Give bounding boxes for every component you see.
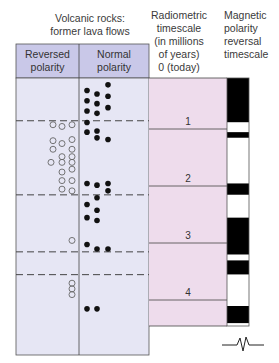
axis-break-icon [222,337,264,351]
normal-lava-flow-dot [94,101,100,107]
normal-lava-flow-dot [84,181,90,187]
timescale-tick-label: 4 [185,287,191,298]
normal-polarity-band [227,306,249,323]
timescale-tick-label: 3 [185,230,191,241]
normal-lava-flow-dot [94,218,100,224]
normal-lava-flow-dot [105,105,111,111]
normal-lava-flow-dot [94,111,100,117]
normal-lava-flow-dot [105,181,111,187]
normal-polarity-band [227,260,249,274]
normal-lava-flow-dot [84,215,90,221]
normal-header-line-1: Normal [97,48,131,60]
reversed-polarity-band [227,275,249,306]
normal-lava-flow-dot [94,195,100,201]
normal-lava-flow-dot [84,88,90,94]
normal-polarity-band [227,78,249,122]
normal-lava-flow-dot [84,108,90,114]
reversed-header-line-1: Reversed [25,48,70,60]
normal-lava-flow-dot [94,128,100,134]
reversed-polarity-band [227,195,249,218]
normal-lava-flow-dot [84,306,90,312]
normal-lava-flow-dot [94,91,100,97]
volcanic-table-body [16,78,149,355]
normal-lava-flow-dot [84,120,90,126]
timescale-tick-label: 2 [185,173,191,184]
polarity-diagram: 1234 Reversed polarity Normal polarity [0,0,279,363]
reversed-header-line-2: polarity [31,61,66,73]
normal-polarity-band [227,132,249,138]
normal-polarity-band [227,218,249,255]
reversed-polarity-band [227,138,249,184]
normal-lava-flow-dot [94,306,100,312]
reversed-polarity-band [227,255,249,261]
normal-header-line-2: polarity [97,61,132,73]
normal-lava-flow-dot [105,137,111,143]
normal-lava-flow-dot [105,188,111,194]
normal-lava-flow-dot [84,129,90,135]
normal-lava-flow-dot [94,246,100,252]
normal-lava-flow-dot [105,82,111,88]
normal-lava-flow-dot [84,242,90,248]
timescale-tick-label: 1 [185,116,191,127]
normal-lava-flow-dot [94,135,100,141]
normal-lava-flow-dot [94,207,100,213]
normal-lava-flow-dot [105,246,111,252]
reversed-polarity-band [227,122,249,132]
normal-lava-flow-dot [105,93,111,99]
normal-lava-flow-dot [94,182,100,188]
normal-polarity-band [227,183,249,194]
normal-lava-flow-dot [84,98,90,104]
normal-lava-flow-dot [84,202,90,208]
